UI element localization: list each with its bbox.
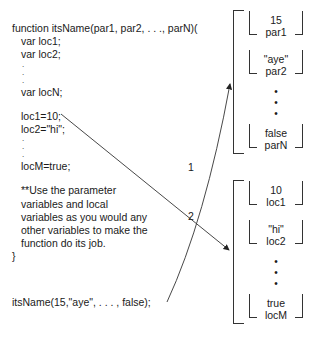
param-ellipsis: ••• [274, 86, 278, 119]
local-value: 10 [249, 184, 303, 196]
arrow-1-label: 1 [188, 161, 194, 173]
arrow-1-call-to-params [167, 84, 230, 302]
param-name: par2 [249, 65, 303, 77]
local-name: loc2 [249, 235, 303, 247]
local-box-loc2: "hi" loc2 [249, 220, 303, 250]
param-box-parN: false parN [249, 124, 303, 154]
param-value: "aye" [249, 53, 303, 65]
local-name: loc1 [249, 196, 303, 208]
param-name: parN [249, 139, 303, 151]
param-box-par2: "aye" par2 [249, 50, 303, 80]
local-value: "hi" [249, 223, 303, 235]
local-value: true [249, 297, 303, 309]
arrow-2-label: 2 [188, 210, 194, 222]
param-name: par1 [249, 26, 303, 38]
local-box-locM: true locM [249, 294, 303, 324]
parameters-frame-bracket [233, 10, 244, 154]
local-ellipsis: ••• [274, 256, 278, 289]
param-value: 15 [249, 14, 303, 26]
local-name: locM [249, 309, 303, 321]
param-value: false [249, 127, 303, 139]
local-box-loc1: 10 loc1 [249, 181, 303, 211]
param-box-par1: 15 par1 [249, 11, 303, 41]
arrow-2-locals [61, 114, 229, 250]
locals-frame-bracket [233, 180, 244, 324]
